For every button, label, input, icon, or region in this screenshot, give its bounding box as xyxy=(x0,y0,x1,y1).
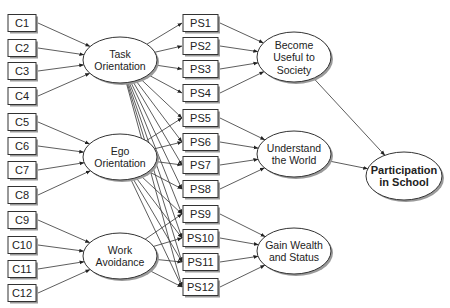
box-label: PS11 xyxy=(187,256,213,268)
indicator-c3: C3 xyxy=(8,63,38,82)
edge-ps7-world xyxy=(220,159,258,165)
ellipse-label: and Status xyxy=(269,251,319,263)
edge-ps6-world xyxy=(220,142,258,148)
ellipse-label: Orientation xyxy=(94,60,146,72)
purpose-ps5: PS5 xyxy=(183,110,220,129)
ellipse-label: Gain Wealth xyxy=(265,239,323,251)
edge-c11-work xyxy=(38,262,84,269)
ellipse-label: Understand xyxy=(267,142,321,154)
box-label: PS7 xyxy=(190,159,211,171)
box-label: C10 xyxy=(12,239,32,251)
edge-ego-ps5 xyxy=(146,118,182,141)
edge-ps2-useful xyxy=(220,46,258,52)
edge-work-ps9 xyxy=(145,214,182,239)
outcome-participation-in-school: Participationin School xyxy=(366,152,444,202)
box-label: PS8 xyxy=(190,183,211,195)
edge-c2-task xyxy=(38,48,84,55)
edge-task-ps5 xyxy=(141,79,182,118)
indicator-c2: C2 xyxy=(8,40,38,59)
orientation-work: WorkAvoidance xyxy=(83,233,159,281)
edge-c9-work xyxy=(38,220,90,243)
path-model-diagram: C1C2C3C4C5C6C7C8C9C10C11C12PS1PS2PS3PS4P… xyxy=(0,0,450,308)
edge-c6-ego xyxy=(38,146,84,152)
edge-ps4-useful xyxy=(220,72,264,93)
purpose-ps4: PS4 xyxy=(183,85,220,104)
indicator-c7: C7 xyxy=(8,162,38,181)
edge-ps8-world xyxy=(220,168,265,189)
box-label: PS12 xyxy=(187,281,214,293)
purpose-ps6: PS6 xyxy=(183,134,220,153)
edge-task-ps2 xyxy=(155,46,182,52)
ellipse-label: the World xyxy=(272,154,317,166)
indicator-c6: C6 xyxy=(8,138,38,157)
edge-ego-ps6 xyxy=(155,142,182,149)
box-label: C11 xyxy=(12,263,31,275)
edge-ps1-useful xyxy=(220,23,263,43)
indicator-c11: C11 xyxy=(8,261,38,280)
ellipse-label: Ego xyxy=(111,145,130,157)
edge-ego-ps8 xyxy=(149,172,182,189)
box-label: PS2 xyxy=(190,40,211,52)
indicator-c12: C12 xyxy=(8,285,38,304)
purpose-ps2: PS2 xyxy=(183,38,220,57)
box-label: C9 xyxy=(15,214,29,226)
ellipse-label: Work xyxy=(108,244,133,256)
ellipse-label: Participation xyxy=(371,164,438,176)
box-label: C5 xyxy=(15,116,29,128)
indicator-c1: C1 xyxy=(8,15,38,34)
ellipse-label: Task xyxy=(109,48,131,60)
box-label: PS4 xyxy=(190,87,211,99)
ellipse-label: Useful to xyxy=(273,51,315,63)
purpose-ps3: PS3 xyxy=(183,61,220,80)
purpose-ps9: PS9 xyxy=(183,206,220,225)
edge-task-ps1 xyxy=(147,23,182,44)
nodes-layer: C1C2C3C4C5C6C7C8C9C10C11C12PS1PS2PS3PS4P… xyxy=(8,15,444,304)
edge-ps5-world xyxy=(220,118,265,140)
edge-c4-task xyxy=(38,73,90,96)
edge-ps3-useful xyxy=(220,63,258,69)
box-label: C3 xyxy=(15,65,29,77)
box-label: PS3 xyxy=(190,63,211,75)
edge-c3-task xyxy=(38,65,84,71)
edge-ps12-wealth xyxy=(220,265,265,287)
factor-world: Understandthe World xyxy=(257,131,333,179)
edge-ps10-wealth xyxy=(220,238,258,245)
edge-task-ps4 xyxy=(148,75,182,93)
edge-task-ps3 xyxy=(156,65,182,69)
ellipse-label: in School xyxy=(379,176,429,188)
purpose-ps10: PS10 xyxy=(183,230,220,249)
box-label: C1 xyxy=(15,17,29,29)
ellipse-label: Orientation xyxy=(94,157,146,169)
edge-c12-work xyxy=(38,270,90,293)
box-label: PS9 xyxy=(190,208,211,220)
orientation-task: TaskOrientation xyxy=(83,37,159,85)
edge-c1-task xyxy=(38,23,90,46)
edge-ego-ps9 xyxy=(141,176,182,214)
edge-ps11-wealth xyxy=(220,256,258,262)
box-label: C12 xyxy=(12,287,32,299)
purpose-ps7: PS7 xyxy=(183,157,220,176)
purpose-ps11: PS11 xyxy=(183,254,220,273)
factor-wealth: Gain Wealthand Status xyxy=(257,228,333,276)
purpose-ps12: PS12 xyxy=(183,279,220,298)
ellipse-label: Avoidance xyxy=(96,256,145,268)
edge-c8-ego xyxy=(38,171,90,195)
factor-useful: BecomeUseful toSociety xyxy=(257,32,333,84)
box-label: C4 xyxy=(15,90,29,102)
box-label: PS5 xyxy=(190,112,211,124)
edge-world-participation xyxy=(329,161,368,169)
indicator-c5: C5 xyxy=(8,114,38,133)
indicator-c9: C9 xyxy=(8,212,38,231)
orientation-ego: EgoOrientation xyxy=(83,134,159,182)
box-label: PS6 xyxy=(190,136,211,148)
edge-work-ps12 xyxy=(149,270,182,287)
ellipse-label: Society xyxy=(277,64,312,76)
box-label: C6 xyxy=(15,140,29,152)
box-label: C7 xyxy=(15,164,29,176)
box-label: C2 xyxy=(15,42,29,54)
indicator-c4: C4 xyxy=(8,88,38,107)
box-label: PS1 xyxy=(190,17,211,29)
purpose-ps1: PS1 xyxy=(183,15,220,34)
purpose-ps8: PS8 xyxy=(183,181,220,200)
edge-work-ps10 xyxy=(154,238,182,246)
